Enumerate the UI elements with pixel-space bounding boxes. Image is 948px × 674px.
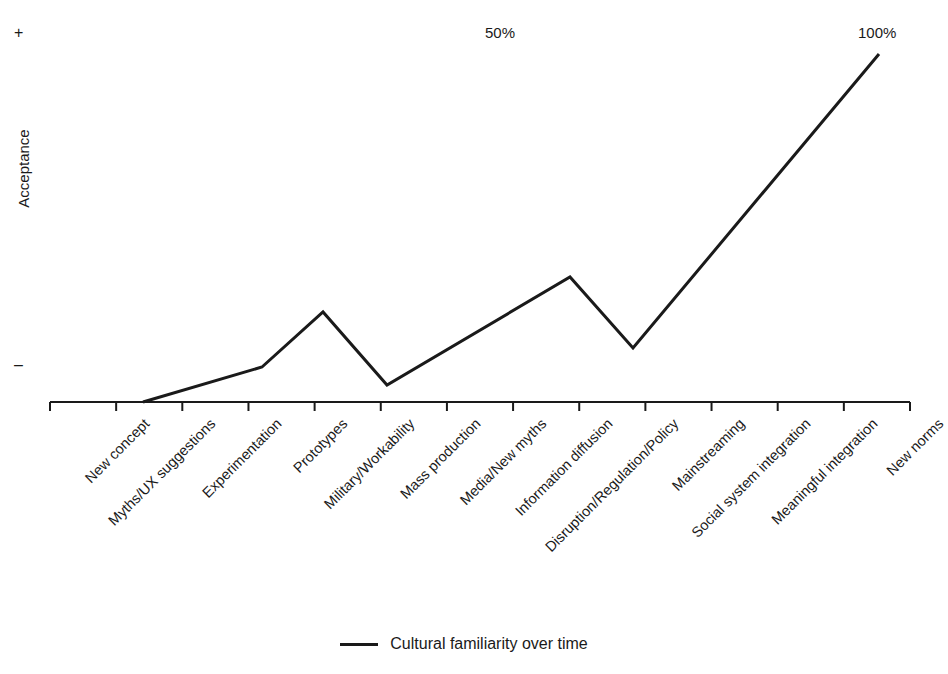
- x-axis-label-text: Prototypes: [291, 414, 352, 475]
- x-axis-label-text: Disruption/Regulation/Policy: [543, 414, 684, 555]
- x-axis-label-text: New norms: [884, 414, 948, 478]
- chart-legend: Cultural familiarity over time: [0, 636, 928, 652]
- x-axis-category-labels: New conceptMyths/UX suggestionsExperimen…: [0, 402, 928, 622]
- legend-series-label: Cultural familiarity over time: [390, 636, 587, 652]
- x-axis-label-8: Disruption/Regulation/Policy: [543, 414, 684, 555]
- x-axis-label-text: Social system integration: [689, 414, 815, 540]
- x-axis-label-10: Social system integration: [689, 414, 815, 540]
- x-axis-label-text: Myths/UX suggestions: [106, 414, 220, 528]
- legend-item: Cultural familiarity over time: [340, 636, 587, 652]
- legend-line-swatch: [340, 643, 378, 646]
- x-axis-label-0: New concept: [83, 414, 155, 486]
- x-axis-label-text: New concept: [83, 414, 155, 486]
- x-axis-label-1: Myths/UX suggestions: [106, 414, 220, 528]
- series-line-0: [143, 54, 879, 402]
- data-series-group: [143, 54, 879, 402]
- x-axis-label-12: New norms: [884, 414, 948, 478]
- x-axis-label-3: Prototypes: [291, 414, 352, 475]
- plot-area: [0, 0, 928, 420]
